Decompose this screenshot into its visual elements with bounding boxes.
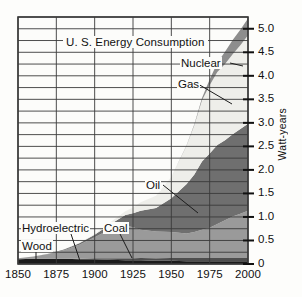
y-tick-label: 0.5 [258,233,274,245]
y-tick-label: 5.0 [258,22,274,34]
series-label-oil: Oil [145,179,161,191]
x-tick-label: 1950 [158,268,184,280]
series-label-gas: Gas [177,78,200,90]
y-axis-title: Watt-years [276,108,288,160]
x-tick-label: 2000 [235,268,261,280]
series-label-coal: Coal [103,222,129,234]
x-tick-label: 1900 [82,268,108,280]
series-label-nuclear: Nuclear [180,57,222,69]
series-label-hydroelectric: Hydroelectric [21,222,90,234]
chart-title: U. S. Energy Consumption [63,36,208,48]
y-tick-label: 4.0 [258,69,274,81]
y-tick-label: 2.0 [258,163,274,175]
y-tick-label: 4.5 [258,45,274,57]
chart-figure: U. S. Energy Consumption Nuclear Gas Oil… [0,0,302,297]
series-label-wood: Wood [21,240,53,252]
x-tick-label: 1925 [120,268,146,280]
x-tick-label: 1850 [5,268,31,280]
y-tick-label: 3.5 [258,92,274,104]
y-tick-label: 1.5 [258,186,274,198]
x-tick-label: 1975 [197,268,223,280]
y-tick-label: 1.0 [258,210,274,222]
x-tick-label: 1875 [43,268,69,280]
y-tick-label: 2.5 [258,139,274,151]
y-tick-label: 3.0 [258,116,274,128]
